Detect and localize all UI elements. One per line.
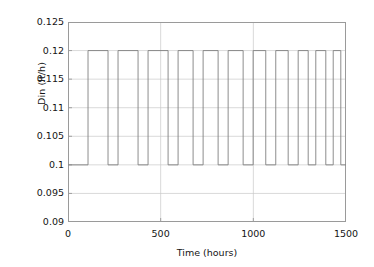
y-tick-label: 0.125 <box>14 16 64 27</box>
y-tick-label: 0.11 <box>14 102 64 113</box>
chart-figure: Din (lt/h) 0.090.0950.10.1050.110.1150.1… <box>0 0 374 267</box>
axis-ticks <box>68 22 346 222</box>
y-tick-label: 0.12 <box>14 45 64 56</box>
gridlines <box>68 22 346 222</box>
x-tick-label: 0 <box>43 228 93 239</box>
x-axis-title: Time (hours) <box>68 247 346 258</box>
y-tick-label: 0.09 <box>14 216 64 227</box>
y-tick-label: 0.115 <box>14 73 64 84</box>
y-tick-label: 0.095 <box>14 187 64 198</box>
x-tick-label: 500 <box>136 228 186 239</box>
plot-frame <box>69 23 346 222</box>
plot-area <box>68 22 346 222</box>
y-tick-label: 0.105 <box>14 130 64 141</box>
chart-svg <box>68 22 346 222</box>
x-tick-label: 1000 <box>228 228 278 239</box>
y-tick-label: 0.1 <box>14 159 64 170</box>
x-tick-label: 1500 <box>321 228 371 239</box>
